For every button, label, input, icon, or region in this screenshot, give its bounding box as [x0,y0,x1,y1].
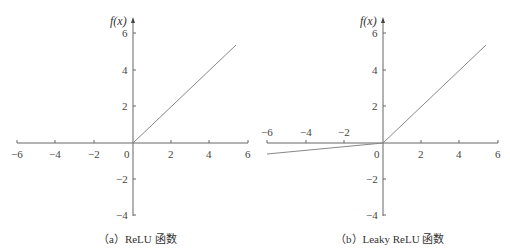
y-tick-label: 2 [372,101,378,112]
x-tick-label: −2 [338,127,350,138]
y-tick-label: 4 [372,65,378,76]
x-tick-label: 2 [418,149,424,160]
x-tick-label: 4 [456,149,462,160]
y-tick-label: −2 [116,174,128,185]
x-tick-label: 6 [495,149,501,160]
y-tick-label: 6 [372,28,378,39]
x-tick-label: −6 [11,149,23,160]
x-tick-label: 0 [124,149,130,160]
y-tick-label: 4 [122,65,128,76]
x-tick-label: −4 [300,127,312,138]
y-tick-label: −4 [116,210,128,221]
y-tick-label: 2 [122,101,128,112]
x-tick-label: 0 [374,149,380,160]
y-axis-arrow-icon [131,17,135,23]
x-tick-label: −2 [88,149,100,160]
chart-caption: （a）ReLU 函数 [98,230,177,246]
y-tick-label: −4 [366,210,378,221]
x-tick-label: 2 [168,149,174,160]
y-tick-label: 6 [122,28,128,39]
relu-chart-panel: f(x) 6 4 2 −2 −4 −6 −4 −2 0 2 4 6 （a）ReL… [0,0,255,250]
leaky-relu-plot-area [255,0,510,250]
x-tick-label: −6 [261,127,273,138]
x-tick-label: −4 [49,149,61,160]
leaky-relu-chart-panel: f(x) 6 4 2 −2 −4 −6 −4 −2 0 2 4 6 （b）Lea… [255,0,510,250]
x-tick-label: 4 [206,149,212,160]
y-tick-label: −2 [366,174,378,185]
y-axis-arrow-icon [381,17,385,23]
chart-caption: （b）Leaky ReLU 函数 [335,230,444,246]
relu-line [133,45,236,143]
x-tick-label: 6 [245,149,251,160]
